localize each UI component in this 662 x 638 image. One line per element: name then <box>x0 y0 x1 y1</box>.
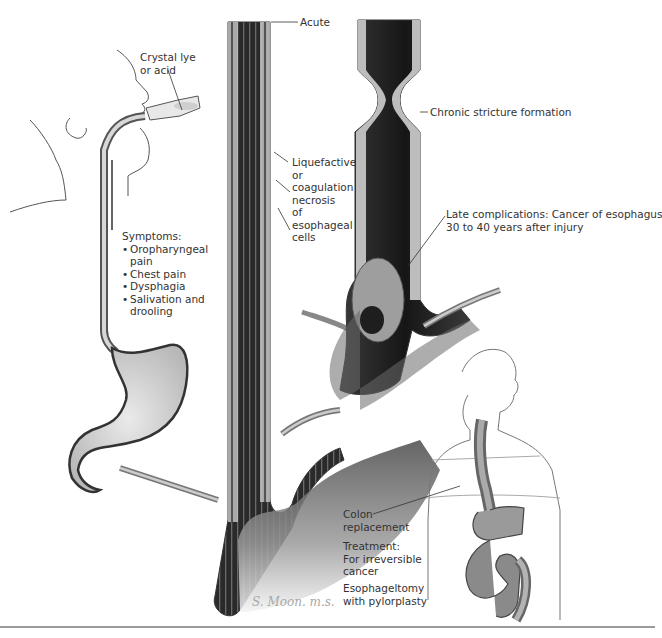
label-line: For irreversible <box>343 553 422 566</box>
label-line: esophageal <box>292 219 356 232</box>
label-line: 30 to 40 years after injury <box>446 221 662 234</box>
label-treatment: Treatment: For irreversible cancer <box>343 540 422 578</box>
symptom-item: Chest pain <box>122 268 208 281</box>
symptom-item: Dysphagia <box>122 280 208 293</box>
symptom-item-cont: drooling <box>122 305 208 318</box>
artist-signature: S. Moon. m.s. <box>252 595 335 609</box>
label-late-complications: Late complications: Cancer of esophagus … <box>446 208 662 233</box>
colon-replacement-drawing <box>466 420 526 620</box>
label-line: Liquefactive <box>292 156 356 169</box>
label-line: replacement <box>343 521 409 534</box>
label-line: Esophageltomy <box>343 582 427 595</box>
label-surgery: Esophageltomy with pylorplasty <box>343 582 427 607</box>
label-line: with pylorplasty <box>343 595 427 608</box>
symptoms-list: Oropharyngeal pain Chest pain Dysphagia … <box>122 243 208 318</box>
label-line: Treatment: <box>343 540 422 553</box>
label-chronic: Chronic stricture formation <box>430 106 571 119</box>
label-line: or acid <box>140 64 196 77</box>
label-colon-replacement: Colon replacement <box>343 508 409 533</box>
head-profile-drawing <box>10 50 149 212</box>
label-line: cells <box>292 231 356 244</box>
label-necrosis: Liquefactive or coagulation necrosis of … <box>292 156 356 244</box>
label-line: Late complications: Cancer of esophagus <box>446 208 662 221</box>
label-line: of <box>292 206 356 219</box>
symptom-item: Salivation and <box>122 293 208 306</box>
symptoms-title: Symptoms: <box>122 230 208 243</box>
label-line: or <box>292 169 356 182</box>
tube-segment <box>282 410 340 434</box>
symptom-item-cont: pain <box>122 255 208 268</box>
label-line: cancer <box>343 565 422 578</box>
symptom-item: Oropharyngeal <box>122 243 208 256</box>
label-line: coagulation <box>292 181 356 194</box>
label-symptoms: Symptoms: Oropharyngeal pain Chest pain … <box>122 230 208 318</box>
label-line: Colon <box>343 508 409 521</box>
bottom-divider <box>0 626 655 628</box>
label-line: necrosis <box>292 194 356 207</box>
label-line: Crystal lye <box>140 51 196 64</box>
label-acute: Acute <box>300 16 330 29</box>
label-crystal-lye: Crystal lye or acid <box>140 51 196 76</box>
bottle-icon <box>146 96 200 120</box>
